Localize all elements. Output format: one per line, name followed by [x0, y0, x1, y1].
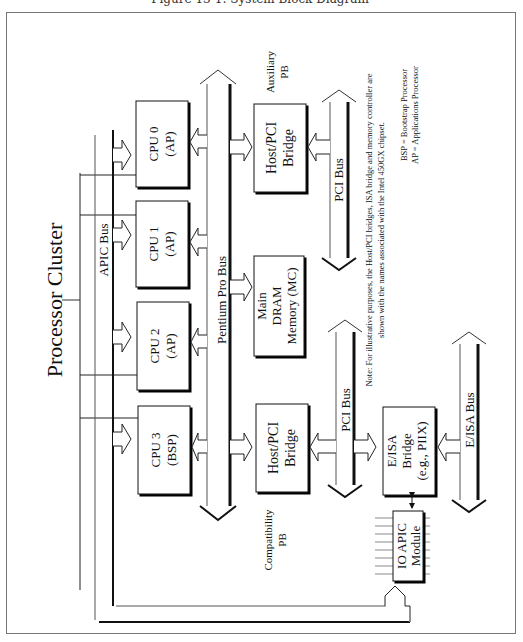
compat-host-pci-bridge-box [256, 404, 308, 492]
legend-ap: AP = Applications Processor [410, 66, 420, 164]
memory-line2: DRAM [269, 286, 284, 325]
aux-bridge-line2: Bridge [281, 129, 296, 167]
io-apic-line2: Module [408, 526, 423, 567]
aux-pb-label1: Auxiliary [264, 50, 276, 93]
aux-host-pci-bridge-box [254, 104, 306, 192]
memory-line3: Memory (MC) [284, 268, 299, 345]
pci-bus-bottom-label: PCI Bus [338, 388, 353, 432]
cpu-3-role: (BSP) [164, 434, 179, 466]
eisa-bus-label: E/ISA Bus [462, 392, 477, 447]
note-line1: Note: For illustrative purposes, the Hos… [364, 73, 374, 386]
compat-pb-label1: Compatibility [262, 509, 274, 571]
aux-bridge-line1: Host/PCI [264, 122, 279, 174]
io-apic-line1: IO APIC [394, 523, 409, 569]
apic-bus-label: APIC Bus [96, 223, 111, 276]
compat-bridge-line1: Host/PCI [266, 422, 281, 474]
legend-bsp: BSP = Bootstrap Processor [399, 69, 409, 161]
eisa-bridge-line1: E/ISA [384, 434, 399, 467]
cpu-0-role: (AP) [162, 131, 177, 156]
cpu-1-role: (AP) [162, 231, 177, 256]
system-block-diagram: Processor Cluster APIC Bus CPU 0 (AP) CP… [0, 0, 523, 642]
cpu-3-name: CPU 3 [148, 432, 163, 467]
pci-bus-top-label: PCI Bus [331, 158, 346, 202]
cpu-2-name: CPU 2 [147, 328, 162, 363]
eisa-bridge-line2: Bridge [399, 433, 414, 469]
cpu-2-role: (AP) [163, 333, 178, 358]
note-line2: shown with the names associated with the… [376, 122, 386, 338]
cpu-0-name: CPU 0 [146, 126, 161, 161]
aux-pb-label2: PB [278, 65, 290, 78]
compat-bridge-line2: Bridge [283, 429, 298, 467]
pentium-pro-bus-label: Pentium Pro Bus [214, 256, 229, 344]
memory-line1: Main [254, 292, 269, 320]
compat-pb-label2: PB [276, 533, 288, 546]
cpu-1-name: CPU 1 [146, 226, 161, 261]
eisa-bridge-line3: (e.g., PIIX) [414, 421, 429, 480]
